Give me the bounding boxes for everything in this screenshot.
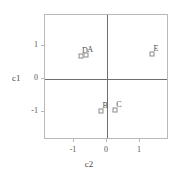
data-point-label: B [102,102,107,110]
y-axis-label: c1 [12,74,21,83]
zero-line-vertical [107,15,108,138]
y-axis-tick-label: 1 [20,41,38,49]
y-axis-tick [41,45,44,46]
x-axis-tick-label: 1 [137,146,141,154]
y-axis-tick [41,111,44,112]
x-axis-tick [73,139,74,142]
x-axis-label: c2 [0,160,178,169]
x-axis-tick-label: 0 [104,146,108,154]
zero-line-horizontal [45,79,167,80]
y-axis-tick [41,78,44,79]
data-point-label: A [87,46,93,54]
y-axis-tick-label: -1 [20,107,38,115]
x-axis-tick-label: -1 [70,146,77,154]
data-point-label: E [153,45,158,53]
y-axis-tick-label: 0 [20,74,38,82]
data-point-label: C [116,101,121,109]
x-axis-tick [139,139,140,142]
plot-area: DAEBC [44,14,168,139]
scatter-plot-figure: DAEBC -101-101 c1 c2 [0,0,178,181]
x-axis-tick [106,139,107,142]
